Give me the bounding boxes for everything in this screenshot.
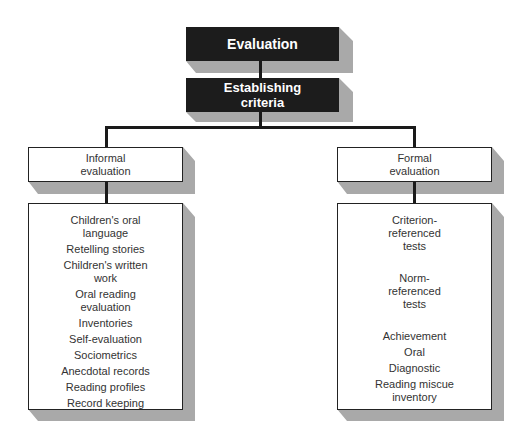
list-item: Oral reading evaluation xyxy=(75,288,136,314)
establishing-criteria-label: Establishing criteria xyxy=(224,80,301,110)
list-item: Children's written work xyxy=(63,259,147,285)
informal-evaluation-label: Informal evaluation xyxy=(80,152,130,178)
connector-to-informal xyxy=(105,126,108,148)
connector-formal-list xyxy=(413,182,416,204)
formal-evaluation-box: Formal evaluation xyxy=(337,147,492,182)
list-item: Norm- referenced tests xyxy=(388,272,441,311)
connector-to-formal xyxy=(413,126,416,148)
list-item: Retelling stories xyxy=(66,243,144,256)
list-item: Inventories xyxy=(79,317,133,330)
connector-root-second xyxy=(259,61,262,78)
list-item: Achievement xyxy=(383,330,447,343)
informal-list-box: Children's oral language Retelling stori… xyxy=(28,203,183,410)
list-item: Sociometrics xyxy=(74,349,137,362)
list-item: Children's oral language xyxy=(71,214,141,240)
formal-list-box: Criterion- referenced tests Norm- refere… xyxy=(337,203,492,410)
list-item: Criterion- referenced tests xyxy=(388,214,441,253)
list-item: Record keeping xyxy=(67,397,144,410)
formal-evaluation-label: Formal evaluation xyxy=(389,152,439,178)
horizontal-connector xyxy=(105,126,416,129)
list-item: Self-evaluation xyxy=(69,333,142,346)
list-item: Reading miscue inventory xyxy=(375,378,454,404)
list-item: Anecdotal records xyxy=(61,365,150,378)
list-item: Reading profiles xyxy=(66,381,146,394)
list-item: Oral xyxy=(404,346,425,359)
list-item: Diagnostic xyxy=(389,362,440,375)
connector-informal-list xyxy=(105,182,108,204)
evaluation-box: Evaluation xyxy=(186,27,339,61)
evaluation-label: Evaluation xyxy=(227,37,298,52)
establishing-criteria-box: Establishing criteria xyxy=(186,78,339,112)
informal-evaluation-box: Informal evaluation xyxy=(28,147,183,182)
